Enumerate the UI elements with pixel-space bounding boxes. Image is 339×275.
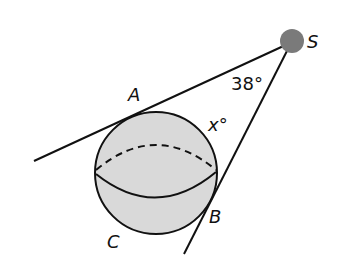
diagram: S 38° A x° B C xyxy=(0,0,339,275)
source-point-S xyxy=(280,29,304,53)
label-S: S xyxy=(307,31,318,52)
angle-x: x° xyxy=(207,114,228,135)
label-C: C xyxy=(107,231,120,252)
label-A: A xyxy=(127,84,140,105)
diagram-svg: S 38° A x° B C xyxy=(0,0,339,275)
angle-38: 38° xyxy=(231,73,263,94)
sphere xyxy=(95,112,217,234)
label-B: B xyxy=(209,206,221,227)
